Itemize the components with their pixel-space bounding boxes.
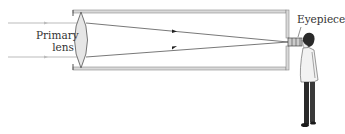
primary-lens-label: Primary lens — [36, 29, 74, 53]
eyepiece-leader-line — [298, 27, 301, 37]
eyepiece — [288, 27, 302, 46]
ray-arrow-icon — [172, 30, 177, 34]
ray-arrow-icon — [172, 46, 177, 50]
eyepiece-label: Eyepiece — [297, 13, 345, 25]
primary-lens-label-line2: lens — [36, 41, 74, 53]
ray-arrow-icon — [44, 22, 48, 25]
primary-lens-label-line1: Primary — [36, 29, 74, 41]
telescope-tube — [73, 10, 289, 70]
converging-rays — [86, 23, 288, 57]
ray-arrow-icon — [44, 56, 48, 59]
observer-figure — [300, 33, 318, 127]
